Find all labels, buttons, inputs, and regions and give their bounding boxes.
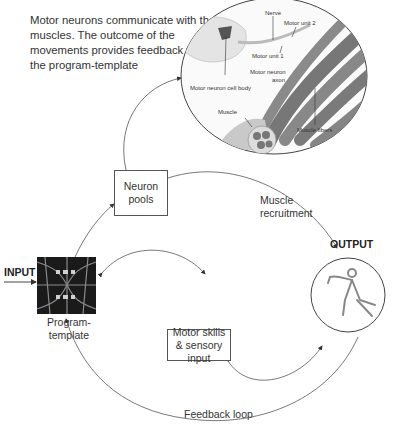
label-motor-neuron-axon-2: axon (272, 77, 285, 83)
label-muscle: Muscle (218, 109, 238, 115)
muscle-anatomy-illustration: Nerve Motor unit 2 Motor unit 1 Motor ne… (180, 0, 375, 154)
program-template-image (37, 257, 96, 314)
diagram-connectors: Nerve Motor unit 2 Motor unit 1 Motor ne… (0, 0, 397, 430)
label-muscle-fibers: Muscle fibers (297, 127, 332, 133)
output-figure (311, 258, 385, 332)
neuron-pools-label: Neuron pools (115, 180, 167, 206)
motor-skills-box: Motor skills & sensory input (167, 329, 231, 361)
label-motor-neuron-axon: Motor neuron (250, 69, 286, 75)
neuron-pools-box: Neuron pools (114, 170, 168, 216)
label-motor-unit-2: Motor unit 2 (284, 20, 316, 26)
label-nerve: Nerve (265, 10, 282, 16)
label-motor-unit-1: Motor unit 1 (252, 53, 284, 59)
motor-skills-label: Motor skills & sensory input (168, 326, 230, 365)
label-motor-neuron-cell-body: Motor neuron cell body (190, 85, 251, 91)
